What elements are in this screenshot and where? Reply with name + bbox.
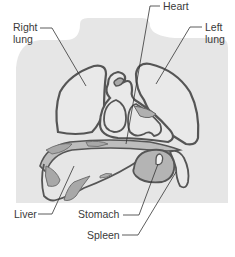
label-liver: Liver [14, 208, 37, 220]
stomach-inner [156, 154, 163, 165]
label-right-lung-line1: Right [13, 21, 38, 33]
label-right-lung: Right lung [13, 21, 38, 45]
label-spleen: Spleen [87, 229, 120, 241]
label-heart: Heart [163, 0, 189, 12]
anatomy-diagram: Right lung Heart Left lung Liver Stomach… [0, 0, 235, 257]
stomach-shape [133, 150, 174, 183]
label-left-lung-line1: Left [205, 21, 225, 33]
label-left-lung: Left lung [205, 21, 225, 45]
label-left-lung-line2: lung [205, 33, 225, 45]
label-right-lung-line2: lung [13, 33, 38, 45]
label-stomach: Stomach [78, 208, 119, 220]
